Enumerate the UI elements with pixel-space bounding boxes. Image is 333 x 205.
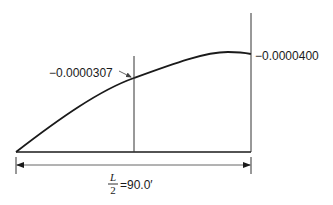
span-fraction-numerator: L [109,171,116,183]
quarter-point-leader [119,71,131,77]
deflection-diagram: −0.0000307 −0.0000400 L 2 =90.0′ [0,0,333,205]
span-fraction-denominator: 2 [110,184,116,196]
quarter-point-deflection-label: −0.0000307 [49,66,113,80]
span-value-label: =90.0′ [120,178,153,192]
midspan-deflection-label: −0.0000400 [255,49,319,63]
